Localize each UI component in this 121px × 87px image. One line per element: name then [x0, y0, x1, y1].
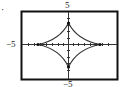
plot-frame [22, 12, 118, 80]
plot-area [0, 0, 121, 87]
